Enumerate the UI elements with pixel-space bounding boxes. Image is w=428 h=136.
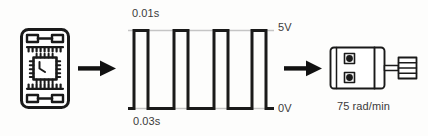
arrow2-shaft	[284, 66, 308, 70]
chip-body	[34, 58, 57, 80]
motor-body	[331, 48, 385, 89]
dc-motor	[331, 48, 417, 89]
arrow2-head	[306, 61, 322, 77]
arrow1-shaft	[78, 66, 102, 70]
arrow-waveform-to-motor	[284, 61, 322, 77]
motor-speed-label: 75 rad/min	[337, 100, 390, 112]
board-pin-header-bottom	[27, 85, 63, 89]
diagram-canvas	[0, 0, 428, 136]
board-chip	[30, 54, 60, 83]
voltage-low-label: 0V	[278, 102, 292, 114]
pwm-waveform	[128, 31, 274, 109]
pwm-signal-trace	[128, 31, 274, 109]
voltage-high-label: 5V	[278, 21, 292, 33]
motor-gear-head	[399, 58, 417, 79]
board-pin-header-top	[27, 47, 63, 51]
arrow-controller-to-waveform	[78, 61, 116, 77]
pwm-motor-control-diagram: 0.01s 0.03s 5V 0V 75 rad/min	[0, 0, 428, 136]
arrow1-head	[100, 61, 116, 77]
period-label: 0.03s	[133, 115, 160, 127]
motor-shaft	[385, 66, 399, 71]
pulse-width-label: 0.01s	[132, 7, 159, 19]
microcontroller-board	[22, 30, 69, 108]
